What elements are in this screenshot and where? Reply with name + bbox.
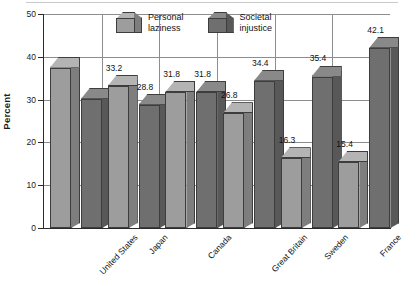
- bar-value-label: 28.8: [137, 83, 154, 92]
- bar-personal-laziness: [223, 113, 244, 228]
- bar-front-face: [165, 92, 186, 228]
- y-axis-tick-label: 20: [27, 138, 36, 147]
- x-axis-category-label: Sweden: [322, 233, 350, 262]
- bar-front-face: [50, 68, 71, 229]
- bar-front-face: [281, 158, 302, 228]
- bar-front-face: [338, 162, 359, 228]
- bar-value-label: 35.4: [310, 54, 327, 63]
- bar-value-label: 42.1: [367, 26, 384, 35]
- bar-top-face: [312, 66, 342, 77]
- bar-side-face: [244, 107, 253, 228]
- bar-top-face: [338, 151, 368, 162]
- bar-front-face: [254, 81, 275, 228]
- x-axis-category-label: France: [379, 233, 403, 258]
- bar-societal-injustice: [312, 77, 333, 229]
- y-axis-tick-label: 40: [27, 53, 36, 62]
- legend-label-line1: Societal: [240, 12, 273, 23]
- legend-label-line1: Personal: [148, 12, 184, 23]
- bar-top-face: [50, 57, 80, 68]
- x-axis-category-label: Japan: [147, 233, 169, 256]
- legend-item[interactable]: Personallaziness: [116, 12, 184, 33]
- bar-top-face: [254, 70, 284, 81]
- bar-top-face: [369, 37, 399, 48]
- bar-front-face: [369, 48, 390, 228]
- legend-item[interactable]: Societalinjustice: [208, 12, 273, 33]
- bar-side-face: [302, 152, 311, 228]
- bar-top-face: [139, 94, 169, 105]
- x-axis-category-label: Great Britain: [270, 233, 309, 274]
- bar-societal-injustice: [139, 105, 160, 228]
- y-axis-tick-label: 50: [27, 10, 36, 19]
- bar-value-label: 31.8: [163, 70, 180, 79]
- bar-front-face: [139, 105, 160, 228]
- dark-gray-cube-icon: [208, 12, 234, 33]
- bar-personal-laziness: [281, 158, 302, 228]
- bar-side-face: [129, 80, 138, 228]
- bar-side-face: [359, 156, 368, 228]
- legend-swatch-face: [208, 18, 227, 33]
- legend-swatch-face: [116, 18, 135, 33]
- bar-top-face: [81, 88, 111, 99]
- legend-label-line2: laziness: [148, 23, 184, 34]
- bar-front-face: [196, 92, 217, 228]
- bar-top-face: [108, 75, 138, 86]
- light-gray-cube-icon: [116, 12, 142, 33]
- bar-personal-laziness: [108, 86, 129, 228]
- y-axis: 01020304050: [0, 0, 44, 301]
- y-axis-tick-label: 0: [31, 224, 36, 233]
- bar-top-face: [165, 81, 195, 92]
- bar-societal-injustice: [81, 99, 102, 228]
- bar-personal-laziness: [338, 162, 359, 228]
- plot-area: 33.228.831.831.826.834.416.335.415.442.1: [44, 14, 390, 228]
- bar-top-face: [223, 102, 253, 113]
- x-axis-category-label: United States: [98, 233, 139, 276]
- bar-personal-laziness: [165, 92, 186, 228]
- top-divider: [26, 2, 398, 3]
- bar-societal-injustice: [254, 81, 275, 228]
- bar-front-face: [108, 86, 129, 228]
- bar-personal-laziness: [50, 68, 71, 229]
- legend-label-line2: injustice: [240, 23, 273, 34]
- bar-side-face: [186, 86, 195, 228]
- bar-value-label: 16.3: [279, 136, 296, 145]
- y-axis-title: Percent: [1, 93, 12, 129]
- legend: PersonallazinessSocietalinjustice: [116, 12, 272, 33]
- bar-front-face: [223, 113, 244, 228]
- y-axis-tick-label: 10: [27, 181, 36, 190]
- bar-side-face: [390, 42, 399, 228]
- bar-value-label: 15.4: [336, 140, 353, 149]
- legend-swatch-face: [226, 12, 234, 33]
- x-axis-category-label: Canada: [207, 233, 234, 261]
- legend-swatch-face: [134, 12, 142, 33]
- y-axis-tick-label: 30: [27, 96, 36, 105]
- legend-label: Personallaziness: [148, 12, 184, 33]
- bar-value-label: 34.4: [252, 59, 269, 68]
- legend-label: Societalinjustice: [240, 12, 273, 33]
- bar-societal-injustice: [369, 48, 390, 228]
- bar-front-face: [81, 99, 102, 228]
- bar-value-label: 26.8: [221, 91, 238, 100]
- bar-front-face: [312, 77, 333, 229]
- bar-value-label: 31.8: [194, 70, 211, 79]
- bar-societal-injustice: [196, 92, 217, 228]
- bar-top-face: [281, 147, 311, 158]
- bar-side-face: [71, 62, 80, 229]
- x-axis-line: [44, 228, 391, 229]
- bar-value-label: 33.2: [106, 64, 123, 73]
